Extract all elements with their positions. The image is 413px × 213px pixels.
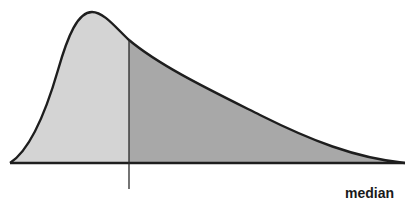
distribution-diagram: median [0,0,413,213]
median-label: median [345,185,394,201]
above-median-area [129,40,405,163]
